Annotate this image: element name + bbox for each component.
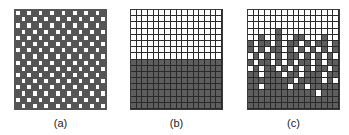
lattice-cell — [50, 11, 54, 15]
lattice-cell — [39, 48, 43, 52]
lattice-cell — [33, 91, 37, 95]
lattice-cell — [73, 61, 77, 65]
lattice-cell — [16, 98, 20, 102]
lattice-cell — [62, 98, 66, 102]
lattice-cell — [33, 54, 37, 58]
lattice-cell — [90, 17, 94, 21]
lattice-cell — [27, 48, 31, 52]
lattice-cell — [50, 61, 54, 65]
lattice-cell — [39, 98, 43, 102]
lattice-cell — [79, 91, 83, 95]
lattice-cell — [44, 54, 48, 58]
lattice-cell — [100, 97, 106, 103]
lattice-cell — [100, 22, 106, 28]
lattice-cell — [84, 23, 88, 27]
lattice-cell — [38, 103, 44, 109]
lattice-cell — [79, 42, 83, 46]
lattice-cell — [22, 42, 26, 46]
lattice-cell — [16, 73, 20, 77]
lattice-cell — [90, 54, 94, 58]
lattice-cell — [44, 91, 48, 95]
lattice-cell — [39, 85, 43, 89]
lattice-cell — [100, 10, 106, 16]
lattice-cell — [101, 91, 105, 95]
lattice-cell — [73, 23, 77, 27]
lattice-cell — [79, 67, 83, 71]
lattice-cell — [72, 103, 78, 109]
lattice-cell — [67, 42, 71, 46]
lattice-cell — [62, 61, 66, 65]
lattice-cell — [26, 103, 32, 109]
lattice-cell — [16, 11, 20, 15]
lattice-cell — [50, 73, 54, 77]
lattice-cell — [62, 85, 66, 89]
lattice-cell — [90, 104, 94, 108]
panel-c-label: (c) — [247, 117, 340, 129]
lattice-cell — [96, 61, 100, 65]
lattice-cell — [44, 67, 48, 71]
lattice-cell — [79, 104, 83, 108]
lattice-cell — [27, 36, 31, 40]
lattice-cell — [90, 79, 94, 83]
lattice-cell — [67, 91, 71, 95]
lattice-cell — [84, 98, 88, 102]
lattice-cell — [44, 79, 48, 83]
lattice-cell — [101, 79, 105, 83]
lattice-cell — [22, 67, 26, 71]
lattice-cell — [62, 11, 66, 15]
lattice-cell — [96, 36, 100, 40]
lattice-cell — [27, 11, 31, 15]
lattice-cell — [84, 11, 88, 15]
lattice-cell — [84, 73, 88, 77]
lattice-cell — [101, 17, 105, 21]
lattice-cell — [50, 98, 54, 102]
lattice-cell — [56, 67, 60, 71]
lattice-cell — [33, 67, 37, 71]
lattice-cell — [33, 79, 37, 83]
checkerboard-grid — [14, 9, 107, 110]
lattice-cell — [56, 104, 60, 108]
lattice-cell — [79, 30, 83, 34]
lattice-cell — [62, 23, 66, 27]
lattice-cell — [27, 61, 31, 65]
panel-b-label: (b) — [130, 117, 223, 129]
phase-separated-grid — [130, 9, 223, 110]
lattice-cell — [56, 79, 60, 83]
lattice-cell — [95, 103, 101, 109]
panel-a-label: (a) — [14, 117, 107, 129]
lattice-cell — [62, 73, 66, 77]
lattice-cell — [84, 48, 88, 52]
lattice-cell — [79, 17, 83, 21]
lattice-cell — [100, 72, 106, 78]
lattice-cell — [27, 23, 31, 27]
lattice-cell — [67, 104, 71, 108]
lattice-cell — [22, 54, 26, 58]
lattice-cell — [96, 23, 100, 27]
lattice-cell — [84, 36, 88, 40]
lattice-cell — [67, 54, 71, 58]
lattice-cell — [27, 98, 31, 102]
lattice-cell — [73, 85, 77, 89]
lattice-cell — [100, 60, 106, 66]
lattice-cell — [73, 73, 77, 77]
lattice-cell — [61, 103, 67, 109]
lattice-cell — [44, 30, 48, 34]
lattice-cell — [49, 103, 55, 109]
lattice-cell — [16, 48, 20, 52]
lattice-cell — [22, 91, 26, 95]
lattice-cell — [62, 48, 66, 52]
lattice-cell — [16, 36, 20, 40]
lattice-cell — [67, 79, 71, 83]
lattice-cell — [33, 17, 37, 21]
lattice-cell — [33, 104, 37, 108]
lattice-cell — [56, 42, 60, 46]
lattice-cell — [96, 11, 100, 15]
lattice-cell — [73, 36, 77, 40]
panel-b — [130, 9, 223, 110]
lattice-cell — [101, 42, 105, 46]
lattice-cell — [22, 79, 26, 83]
lattice-cell — [56, 91, 60, 95]
lattice-cell — [16, 61, 20, 65]
lattice-cell — [67, 30, 71, 34]
lattice-cell — [67, 17, 71, 21]
